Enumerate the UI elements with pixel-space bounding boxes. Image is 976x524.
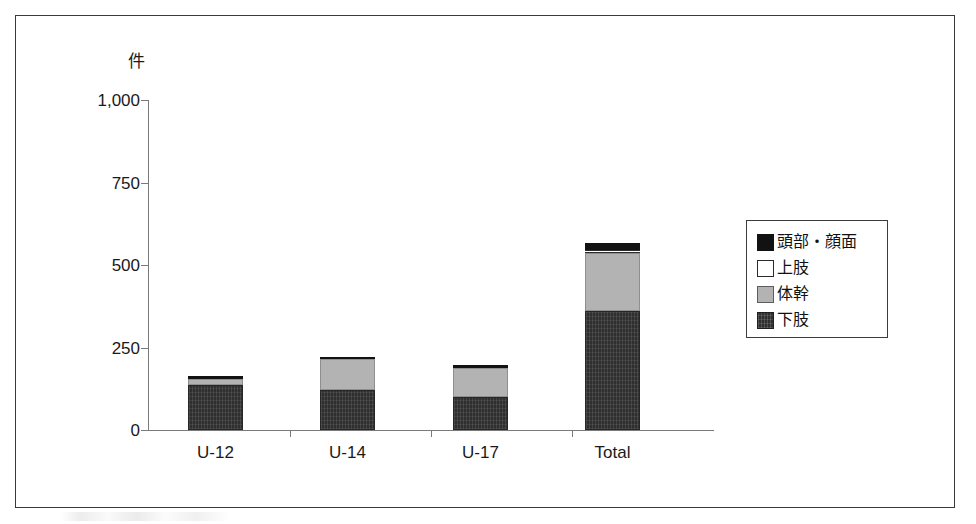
gray-square-icon bbox=[757, 286, 774, 303]
legend-label-lower: 下肢 bbox=[777, 311, 809, 329]
y-tick-label-1000: 1,000 bbox=[66, 92, 140, 109]
y-tick-mark-250 bbox=[141, 348, 148, 349]
legend-label-upper: 上肢 bbox=[777, 259, 809, 277]
white-square-icon bbox=[757, 260, 774, 277]
legend-label-trunk: 体幹 bbox=[777, 285, 809, 303]
bar-total-segment-head bbox=[585, 243, 640, 250]
y-axis-line bbox=[148, 100, 149, 430]
y-tick-mark-500 bbox=[141, 265, 148, 266]
bar-u-14-segment-trunk bbox=[320, 359, 375, 390]
plot-area bbox=[148, 100, 714, 430]
y-axis-unit-label: 件 bbox=[128, 52, 145, 71]
y-tick-label-750: 750 bbox=[66, 175, 140, 192]
bar-u-12-segment-trunk bbox=[188, 379, 243, 386]
x-tick-mark-2 bbox=[431, 430, 432, 437]
bar-u-12-segment-lower bbox=[188, 385, 243, 430]
x-tick-label-u-12: U-12 bbox=[174, 443, 257, 463]
bar-u-17-segment-lower bbox=[453, 397, 508, 430]
black-square-icon bbox=[757, 234, 774, 251]
legend-item-trunk[interactable]: 体幹 bbox=[757, 281, 887, 307]
bar-total-segment-trunk bbox=[585, 253, 640, 311]
x-tick-label-total: Total bbox=[571, 443, 654, 463]
bar-total[interactable] bbox=[585, 243, 640, 430]
bar-total-segment-lower bbox=[585, 311, 640, 431]
legend-item-upper[interactable]: 上肢 bbox=[757, 255, 887, 281]
x-tick-mark-3 bbox=[572, 430, 573, 437]
dark-hatched-square-icon bbox=[757, 312, 774, 329]
bar-u-14-segment-lower bbox=[320, 390, 375, 430]
bar-u-14[interactable] bbox=[320, 357, 375, 430]
y-tick-mark-750 bbox=[141, 183, 148, 184]
x-tick-mark-1 bbox=[290, 430, 291, 437]
y-axis-tick-labels: 1,000 750 500 250 0 bbox=[58, 100, 140, 430]
legend-item-lower[interactable]: 下肢 bbox=[757, 307, 887, 333]
x-axis-tick-labels: U-12 U-14 U-17 Total bbox=[148, 443, 714, 467]
bar-u-17-segment-trunk bbox=[453, 368, 508, 397]
x-tick-label-u-17: U-17 bbox=[439, 443, 522, 463]
legend-item-head[interactable]: 頭部・顔面 bbox=[757, 229, 887, 255]
y-tick-mark-0 bbox=[141, 430, 148, 431]
x-tick-label-u-14: U-14 bbox=[306, 443, 389, 463]
stacked-bar-chart-figure: 件 1,000 750 500 250 0 bbox=[0, 0, 976, 524]
bar-u-17[interactable] bbox=[453, 365, 508, 430]
chart-legend: 頭部・顔面 上肢 体幹 下肢 bbox=[746, 220, 888, 338]
y-tick-mark-1000 bbox=[141, 100, 148, 101]
y-tick-label-500: 500 bbox=[66, 257, 140, 274]
bar-u-12[interactable] bbox=[188, 376, 243, 430]
y-tick-label-0: 0 bbox=[66, 422, 140, 439]
y-tick-label-250: 250 bbox=[66, 340, 140, 357]
scan-artifact bbox=[60, 512, 230, 521]
legend-label-head: 頭部・顔面 bbox=[777, 233, 857, 251]
